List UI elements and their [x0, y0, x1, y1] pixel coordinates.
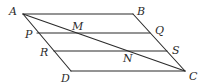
label-m: M — [71, 20, 84, 33]
label-d: D — [60, 72, 70, 84]
label-n: N — [122, 52, 133, 65]
label-b: B — [136, 5, 145, 18]
label-a: A — [8, 5, 17, 18]
label-s: S — [172, 44, 180, 57]
label-q: Q — [155, 24, 164, 37]
label-r: R — [39, 46, 48, 59]
label-c: C — [189, 70, 198, 83]
label-p: P — [24, 28, 33, 41]
segment-bc — [133, 14, 185, 71]
parallelogram-diagram: A B C D P Q R S M N — [0, 0, 202, 84]
